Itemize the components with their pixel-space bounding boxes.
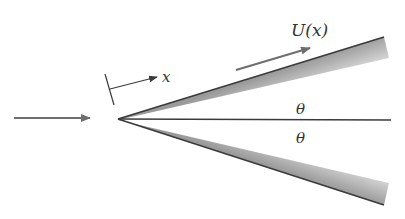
symmetry-centerline [118, 119, 391, 120]
coordinate-origin-tick [105, 74, 114, 105]
angle-label-lower: θ [296, 129, 305, 147]
wedge-flow-diagram: x U(x) θ θ [0, 0, 405, 219]
coordinate-axis-arrow-icon [110, 77, 157, 89]
upper-wedge-shading [118, 37, 389, 120]
angle-label-upper: θ [296, 100, 305, 118]
lower-wedge-surface [118, 119, 384, 205]
upper-wedge-surface [118, 37, 384, 119]
coordinate-label: x [162, 68, 171, 86]
velocity-label: U(x) [291, 20, 328, 40]
